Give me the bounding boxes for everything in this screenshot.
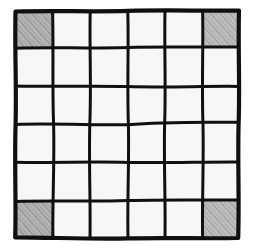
hand-drawn-grid bbox=[0, 0, 254, 251]
grid-line-vertical-5 bbox=[202, 11, 203, 238]
grid-line-horizontal-4 bbox=[15, 162, 238, 163]
shaded-cell-top-left bbox=[16, 11, 54, 48]
shaded-cell-bottom-left bbox=[15, 201, 53, 238]
shaded-cell-bottom-right bbox=[202, 200, 238, 238]
grid-line-vertical-4 bbox=[164, 11, 165, 238]
grid-line-horizontal-1 bbox=[16, 47, 239, 48]
grid-line-horizontal-5 bbox=[15, 200, 238, 201]
grid-figure bbox=[0, 0, 254, 251]
shaded-cell-top-right bbox=[203, 11, 239, 48]
grid-line-horizontal-2 bbox=[16, 86, 239, 87]
